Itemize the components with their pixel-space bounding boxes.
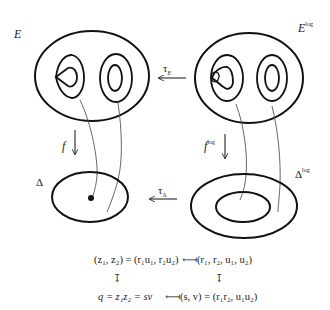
E-log-nodal-fiber-outer xyxy=(211,55,243,101)
formula-row1-left: (z₁, z₂) = (r₁u₁, r₂u₂) xyxy=(94,254,179,266)
label-tau-E: τE xyxy=(163,62,171,76)
E-log-section-curve-1 xyxy=(236,104,247,200)
label-f: f xyxy=(62,139,67,153)
label-Delta: Δ xyxy=(36,176,43,188)
E-nodal-loop-outer xyxy=(56,55,84,98)
label-E: E xyxy=(13,27,22,41)
Delta-origin-point xyxy=(88,195,94,201)
label-Delta-log: Δlog xyxy=(295,167,310,180)
base-Delta-log-outer xyxy=(191,174,297,238)
E-log-nodal-fiber-inner xyxy=(212,67,233,89)
base-Delta-log-inner xyxy=(216,192,270,222)
label-E-log: Elog xyxy=(297,21,313,35)
formula-row1-arrow: ⟻ xyxy=(182,254,197,265)
formula-down-arrow-right: ↧ xyxy=(215,273,224,284)
formula-row2-right: (s, v) = (r₁r₂, u₁u₂) xyxy=(180,291,258,303)
E-nodal-loop-inner xyxy=(56,68,77,87)
diagram-canvas: E f Δ Elog τE flog Δlog τΔ (z₁, z₂) = (r… xyxy=(0,0,330,310)
E-section-curve-1 xyxy=(80,100,97,198)
E-log-smooth-fiber-inner xyxy=(265,65,279,91)
E-smooth-fiber-inner xyxy=(108,65,122,91)
E-log-smooth-fiber-outer xyxy=(257,55,287,101)
formula-down-arrow-left: ↧ xyxy=(113,273,122,284)
formula-row2-arrow: ⟻ xyxy=(165,291,180,302)
formula-row2-left: q = z₁z₂ = sv xyxy=(98,291,152,302)
E-log-section-curve-2 xyxy=(272,106,280,212)
formula-row1-right: (r₁, r₂, u₁, u₂) xyxy=(197,254,252,266)
label-tau-Delta: τΔ xyxy=(158,184,166,198)
E-smooth-fiber-outer xyxy=(100,54,132,102)
label-f-log: flog xyxy=(204,139,215,153)
